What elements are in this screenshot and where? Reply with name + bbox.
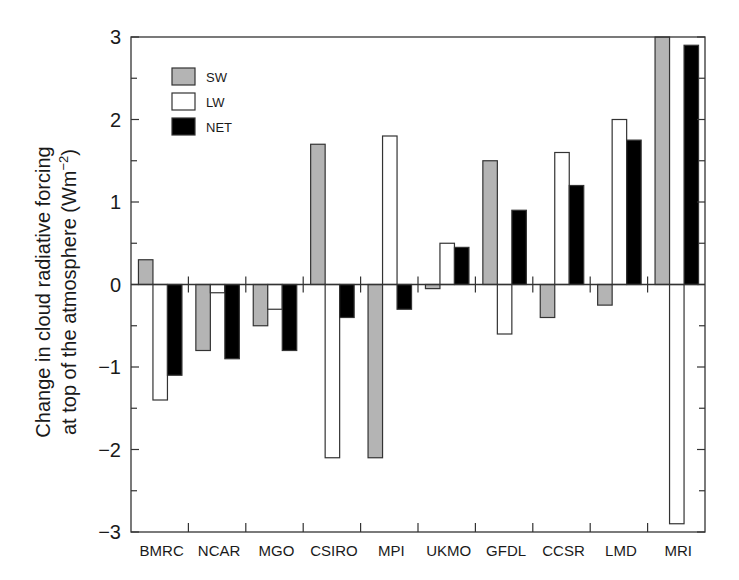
y-tick-label: 2 (110, 109, 121, 131)
bar-net-csiro (340, 285, 355, 318)
bar-lw-mpi (383, 136, 398, 285)
bar-lw-mgo (268, 285, 283, 310)
bar-net-gfdl (512, 210, 526, 284)
bar-lw-lmd (612, 120, 627, 285)
x-category-label: CSIRO (310, 542, 358, 559)
y-axis-label-line-2: at top of the atmosphere (Wm−2) (56, 149, 80, 435)
bar-lw-ccsr (555, 153, 570, 285)
legend-swatch-sw (172, 68, 195, 85)
bar-sw-csiro (311, 144, 326, 284)
bar-net-ukmo (454, 247, 469, 284)
bar-lw-mri (670, 285, 685, 524)
legend-label-sw: SW (206, 70, 228, 85)
bar-net-lmd (627, 140, 642, 284)
y-axis-label-group: Change in cloud radiative forcingat top … (32, 146, 80, 437)
bar-sw-bmrc (138, 260, 153, 285)
bar-sw-mri (655, 37, 670, 285)
x-category-label: NCAR (198, 542, 241, 559)
bar-net-mri (684, 45, 699, 284)
bar-lw-ukmo (440, 243, 455, 284)
bar-sw-ccsr (540, 285, 555, 318)
bar-net-ccsr (569, 186, 584, 285)
legend-label-net: NET (206, 120, 232, 135)
x-category-label: GFDL (486, 542, 526, 559)
y-axis-label: Change in cloud radiative forcingat top … (32, 146, 80, 437)
bar-net-mgo (282, 285, 297, 351)
x-category-label: MGO (259, 542, 295, 559)
x-category-label: CCSR (542, 542, 585, 559)
bar-sw-ncar (196, 285, 211, 351)
legend-swatch-net (172, 118, 195, 135)
y-tick-label: 3 (110, 26, 121, 48)
bar-net-bmrc (167, 285, 182, 376)
x-category-label: BMRC (140, 542, 184, 559)
bar-net-mpi (397, 285, 412, 310)
y-axis-label-line-1: Change in cloud radiative forcing (32, 146, 54, 437)
bar-chart: −3−2−10123BMRCNCARMGOCSIROMPIUKMOGFDLCCS… (0, 0, 739, 580)
bar-lw-gfdl (497, 285, 512, 335)
y-tick-label: −2 (98, 439, 121, 461)
x-category-label: LMD (605, 542, 637, 559)
y-tick-label: −1 (98, 356, 121, 378)
bar-sw-gfdl (483, 161, 498, 285)
bar-sw-lmd (598, 285, 613, 306)
x-category-label: MRI (665, 542, 693, 559)
legend-swatch-lw (172, 93, 195, 110)
bar-lw-csiro (325, 285, 340, 458)
bar-sw-mpi (368, 285, 383, 458)
bar-sw-mgo (253, 285, 268, 326)
bar-net-ncar (225, 285, 240, 359)
y-tick-label: −3 (98, 521, 121, 543)
bar-lw-ncar (210, 285, 225, 293)
bar-lw-bmrc (153, 285, 168, 401)
legend-label-lw: LW (206, 95, 225, 110)
legend: SWLWNET (172, 68, 232, 135)
x-category-label: UKMO (426, 542, 471, 559)
x-category-label: MPI (378, 542, 405, 559)
y-tick-label: 0 (110, 274, 121, 296)
y-tick-label: 1 (110, 191, 121, 213)
